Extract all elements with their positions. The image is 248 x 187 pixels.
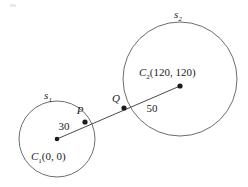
radius-label-50: 50 — [147, 102, 159, 114]
geometry-figure: s1 s2 30 50 C1(0, 0) C2(120, 120) P Q — [0, 0, 248, 187]
point-label-p: P — [76, 104, 84, 116]
center-label-c1-coords: (0, 0) — [42, 150, 66, 163]
point-p-dot — [82, 119, 87, 124]
point-c1-dot — [55, 137, 60, 142]
point-c2-dot — [177, 83, 182, 88]
center-label-c2-coords: (120, 120) — [150, 66, 196, 79]
circle-label-s2-subscript: 2 — [178, 15, 182, 23]
circle-label-s2: s2 — [174, 8, 182, 23]
center-label-c2: C2(120, 120) — [139, 66, 196, 81]
point-q-dot — [121, 105, 126, 110]
circle-s2 — [123, 22, 237, 136]
scan-artifact — [10, 4, 16, 7]
circle-label-s1: s1 — [44, 89, 52, 104]
point-label-q: Q — [112, 92, 120, 104]
radius-label-30: 30 — [59, 120, 71, 132]
circle-label-s1-subscript: 1 — [48, 96, 52, 104]
center-label-c1: C1(0, 0) — [31, 150, 66, 165]
